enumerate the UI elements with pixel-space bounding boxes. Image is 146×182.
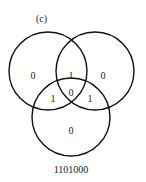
region-left-only: 0 — [31, 70, 36, 81]
region-left-right: 1 — [69, 70, 74, 81]
region-left-bottom: 1 — [51, 93, 56, 104]
panel-label: (c) — [36, 13, 47, 25]
region-bottom-only: 0 — [69, 125, 74, 136]
circle-left — [9, 32, 87, 110]
caption: 1101000 — [54, 164, 89, 175]
region-right-bottom: 1 — [88, 93, 93, 104]
region-center: 0 — [69, 87, 74, 98]
region-right-only: 0 — [101, 70, 106, 81]
venn-diagram: (c) 0 1 0 1 0 1 0 1101000 — [0, 0, 146, 182]
